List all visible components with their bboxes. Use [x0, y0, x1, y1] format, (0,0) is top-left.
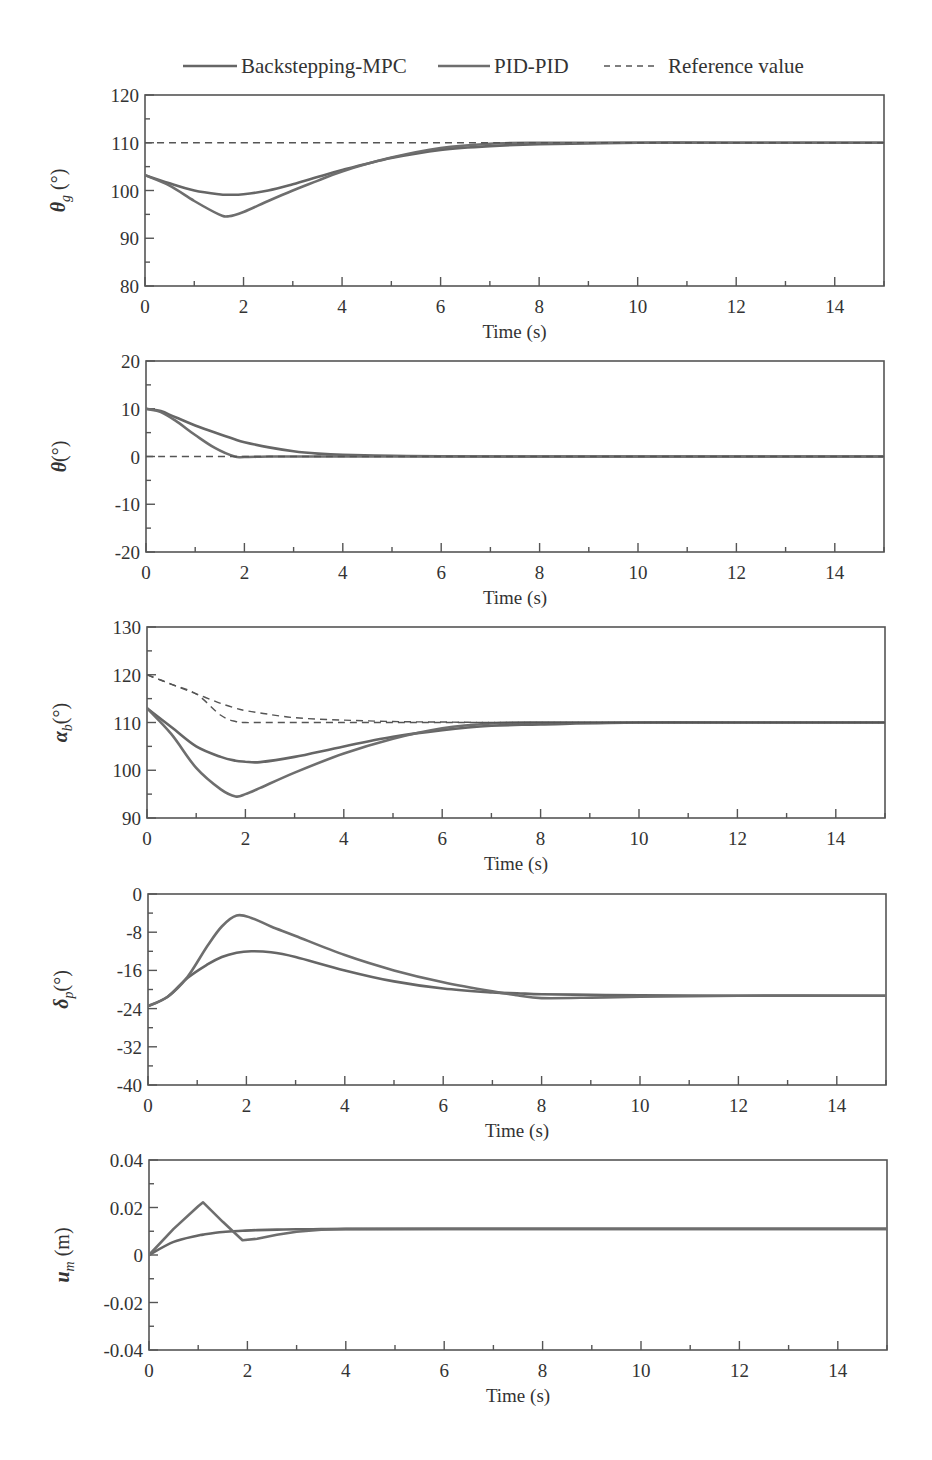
series-line-pid-pid [147, 708, 885, 797]
x-axis-title: Time (s) [483, 587, 547, 609]
series-line-reference-value-pid-pid [147, 675, 885, 723]
x-tick-label: 10 [628, 296, 647, 317]
x-tick-label: 6 [436, 296, 446, 317]
legend-label-backstepping-mpc: Backstepping-MPC [241, 54, 407, 78]
y-tick-label: 110 [111, 133, 139, 154]
x-tick-label: 14 [825, 296, 845, 317]
x-tick-label: 6 [436, 562, 446, 583]
x-tick-label: 4 [338, 562, 348, 583]
x-tick-label: 8 [535, 562, 545, 583]
y-tick-label: 0.02 [110, 1198, 143, 1219]
x-tick-label: 2 [241, 828, 251, 849]
x-tick-label: 8 [538, 1360, 548, 1381]
y-tick-label: 110 [113, 713, 141, 734]
y-tick-label: -24 [117, 999, 143, 1020]
x-tick-label: 0 [140, 296, 150, 317]
series-line-backstepping-mpc [148, 951, 886, 1006]
panel-theta-g: 024681012148090100110120Time (s)θg (°) [47, 85, 884, 343]
y-tick-label: -10 [115, 494, 140, 515]
series-line-backstepping-mpc [145, 143, 884, 195]
panel-u-m: 02468101214-0.04-0.0200.020.04Time (s)um… [51, 1150, 887, 1407]
x-tick-label: 6 [438, 1095, 448, 1116]
x-tick-label: 2 [239, 296, 249, 317]
x-tick-label: 0 [143, 1095, 153, 1116]
legend: Backstepping-MPC PID-PID Reference value [183, 54, 804, 78]
y-tick-label: -32 [117, 1037, 142, 1058]
panel-alpha-b: 0246810121490100110120130Time (s)αb(°) [49, 617, 885, 875]
x-axis-title: Time (s) [482, 321, 546, 343]
legend-label-reference: Reference value [668, 54, 804, 78]
y-tick-label: 100 [113, 760, 142, 781]
panel-delta-p: 02468101214-40-32-24-16-80Time (s)δp(°) [50, 884, 886, 1142]
y-axis-title: um (m) [51, 1227, 77, 1282]
x-tick-label: 0 [144, 1360, 154, 1381]
y-axis-title: δp(°) [50, 970, 76, 1009]
y-tick-label: 100 [111, 181, 140, 202]
x-tick-label: 6 [437, 828, 447, 849]
y-tick-label: 90 [120, 228, 139, 249]
y-tick-label: 0 [131, 447, 141, 468]
x-axis-title: Time (s) [484, 853, 548, 875]
x-tick-label: 14 [825, 562, 845, 583]
y-tick-label: 120 [113, 665, 142, 686]
x-tick-label: 12 [730, 1360, 749, 1381]
plot-frame [145, 95, 884, 286]
x-tick-label: 4 [337, 296, 347, 317]
x-tick-label: 14 [827, 1095, 847, 1116]
x-tick-label: 4 [341, 1360, 351, 1381]
x-tick-label: 2 [242, 1095, 252, 1116]
y-axis-title: αb(°) [49, 703, 75, 742]
x-tick-label: 12 [728, 828, 747, 849]
y-tick-label: -20 [115, 542, 140, 563]
x-tick-label: 8 [537, 1095, 547, 1116]
x-tick-label: 10 [629, 562, 648, 583]
legend-label-pid-pid: PID-PID [494, 54, 569, 78]
y-tick-label: 130 [113, 617, 142, 638]
y-tick-label: 0 [134, 1245, 144, 1266]
x-tick-label: 0 [142, 828, 152, 849]
x-tick-label: 10 [630, 828, 649, 849]
x-tick-label: 10 [632, 1360, 651, 1381]
y-tick-label: 90 [122, 808, 141, 829]
series-line-pid-pid [145, 143, 884, 217]
series-line-pid-pid [149, 1202, 887, 1255]
series-line-backstepping-mpc [147, 708, 885, 762]
y-tick-label: -0.04 [103, 1340, 143, 1361]
y-tick-label: -0.02 [103, 1293, 143, 1314]
plot-frame [149, 1160, 887, 1350]
x-axis-title: Time (s) [486, 1385, 550, 1407]
y-tick-label: 20 [121, 351, 140, 372]
x-tick-label: 0 [141, 562, 151, 583]
figure: Backstepping-MPC PID-PID Reference value… [0, 0, 932, 1460]
x-tick-label: 14 [828, 1360, 848, 1381]
x-axis-title: Time (s) [485, 1120, 549, 1142]
panel-theta: 02468101214-20-1001020Time (s)θ(°) [48, 351, 884, 609]
y-tick-label: 0 [133, 884, 143, 905]
x-tick-label: 10 [631, 1095, 650, 1116]
series-line-pid-pid [146, 409, 884, 458]
x-tick-label: 12 [727, 296, 746, 317]
y-tick-label: 120 [111, 85, 140, 106]
x-tick-label: 8 [536, 828, 546, 849]
y-tick-label: 10 [121, 399, 140, 420]
series-line-backstepping-mpc [146, 409, 884, 457]
x-tick-label: 14 [826, 828, 846, 849]
x-tick-label: 12 [727, 562, 746, 583]
x-tick-label: 2 [240, 562, 250, 583]
y-axis-title: θ(°) [48, 441, 71, 473]
y-axis-title: θg (°) [47, 169, 73, 213]
x-tick-label: 8 [534, 296, 544, 317]
x-tick-label: 2 [243, 1360, 253, 1381]
series-line-backstepping-mpc [149, 1229, 887, 1255]
series-line-reference-value-backstepping-mpc [147, 675, 885, 723]
y-tick-label: -40 [117, 1075, 142, 1096]
x-tick-label: 12 [729, 1095, 748, 1116]
x-tick-label: 4 [339, 828, 349, 849]
y-tick-label: 0.04 [110, 1150, 144, 1171]
x-tick-label: 4 [340, 1095, 350, 1116]
plot-frame [148, 894, 886, 1085]
y-tick-label: -8 [126, 922, 142, 943]
y-tick-label: -16 [117, 960, 142, 981]
y-tick-label: 80 [120, 276, 139, 297]
x-tick-label: 6 [439, 1360, 449, 1381]
